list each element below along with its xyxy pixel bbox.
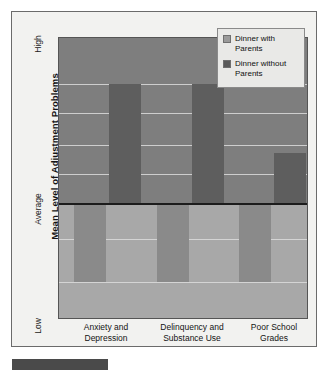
legend-swatch-icon-dinner-without-parents bbox=[223, 60, 231, 68]
gridline bbox=[59, 174, 307, 175]
legend-label-dinner-without-parents: Dinner without Parents bbox=[235, 59, 300, 78]
below-average-zone bbox=[59, 203, 307, 319]
legend-item-dinner-without-parents: Dinner without Parents bbox=[223, 59, 300, 78]
y-tick-label-high: High bbox=[33, 24, 43, 64]
bar-with-parents-delinquency bbox=[157, 203, 189, 282]
gridline bbox=[59, 282, 307, 283]
y-tick-label-low: Low bbox=[33, 308, 43, 344]
bar-without-parents-grades bbox=[274, 153, 306, 203]
gridline bbox=[59, 145, 307, 146]
y-tick-label-average: Average bbox=[33, 184, 43, 234]
average-baseline bbox=[59, 203, 307, 205]
bar-without-parents-anxiety bbox=[109, 84, 141, 203]
bar-with-parents-anxiety bbox=[74, 203, 106, 282]
figure-card: Mean Level of Adjustment Problems High A… bbox=[11, 11, 317, 347]
legend-label-dinner-with-parents: Dinner with Parents bbox=[235, 34, 300, 53]
bar-with-parents-grades bbox=[239, 203, 271, 282]
legend: Dinner with Parents Dinner without Paren… bbox=[217, 28, 305, 88]
x-tick-label-anxiety-and-depression: Anxiety and Depression bbox=[64, 322, 148, 343]
bar-without-parents-delinquency bbox=[192, 84, 224, 203]
gridline bbox=[59, 113, 307, 114]
legend-swatch-icon-dinner-with-parents bbox=[223, 35, 231, 43]
legend-item-dinner-with-parents: Dinner with Parents bbox=[223, 34, 300, 53]
x-tick-label-delinquency-and-substance-use: Delinquency and Substance Use bbox=[146, 322, 238, 343]
x-tick-label-poor-school-grades: Poor School Grades bbox=[236, 322, 312, 343]
caption-bar bbox=[12, 359, 108, 370]
